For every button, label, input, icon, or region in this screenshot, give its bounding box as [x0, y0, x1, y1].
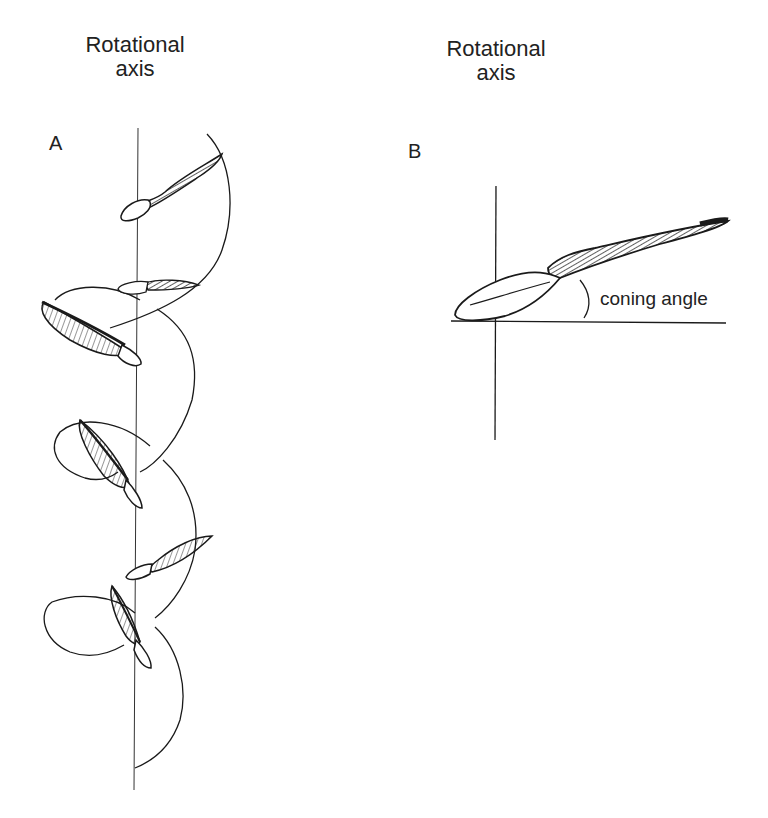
samara-seed-1 — [121, 154, 222, 221]
samara-seed-5 — [126, 536, 212, 579]
panel-a-diagram — [42, 128, 230, 790]
horizontal-reference-line — [451, 321, 726, 323]
coning-angle-arc — [580, 280, 589, 318]
samara-seed-2 — [118, 280, 199, 294]
samara-seed-3 — [42, 302, 141, 366]
diagram-canvas — [0, 0, 768, 818]
rotational-axis-a — [134, 128, 138, 790]
trajectory-arc-5 — [155, 460, 196, 618]
samara-seed-6 — [111, 586, 151, 668]
panel-b-diagram — [451, 186, 728, 440]
trajectory-arc-3 — [140, 309, 195, 472]
